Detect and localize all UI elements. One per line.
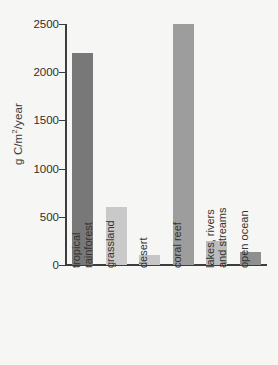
y-axis-tick-label: 2500 xyxy=(19,18,59,30)
y-axis-tick-label: 1000 xyxy=(19,163,59,175)
y-axis-tick-label: 1500 xyxy=(19,114,59,126)
y-axis-tick-label: 500 xyxy=(19,211,59,223)
y-axis-tick-labels: 05001000150020002500 xyxy=(15,0,59,365)
x-axis-tick-labels: tropicalrainforestgrasslanddesertcoral r… xyxy=(66,268,267,365)
x-axis-tick-label-line: rainforest xyxy=(83,222,95,268)
x-axis-tick-label-line: desert xyxy=(138,237,150,268)
plot-area xyxy=(66,24,267,265)
x-axis-tick-label-line: and streams xyxy=(217,207,229,268)
bar-chart: g C/m2/year 05001000150020002500 tropica… xyxy=(0,0,278,365)
y-axis-tick-label: 0 xyxy=(19,259,59,271)
x-axis-tick-label-line: open ocean xyxy=(239,211,251,269)
x-axis-tick-label-line: coral reef xyxy=(172,222,184,268)
x-axis-tick-label-line: grassland xyxy=(105,220,117,268)
y-axis-tick-label: 2000 xyxy=(19,66,59,78)
